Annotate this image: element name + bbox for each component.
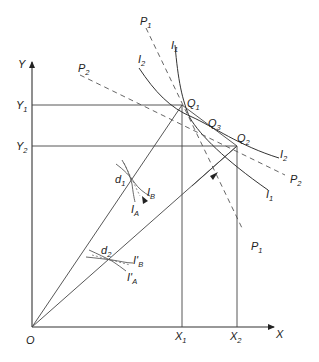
d1-label: d1 [115, 173, 125, 188]
p2-right-label: P2 [290, 173, 302, 188]
ib-d1-label: IB [147, 186, 155, 201]
ia-d2-label: I'A [127, 271, 137, 286]
i1-end-label: I1 [266, 188, 273, 203]
x1-label: X1 [174, 330, 187, 345]
ib-d2-label: I'B [133, 254, 143, 269]
price-lines [80, 28, 285, 228]
y1-label: Y1 [16, 99, 28, 114]
p2-left-label: P2 [78, 62, 90, 77]
ia-d1-label: IA [131, 203, 139, 218]
curve-i2 [139, 68, 279, 158]
i1-top-label: I1 [171, 39, 178, 54]
origin-label: O [26, 334, 35, 346]
price-line-p1 [146, 28, 242, 228]
x-axis-label: X [275, 328, 284, 340]
economic-diagram: Y O X Y1 Y2 X1 X2 Q1 Q2 Q3 d1 d2 I1 I2 I… [0, 0, 319, 362]
p1-top-label: P1 [140, 15, 152, 30]
segment-q2-down [192, 146, 237, 186]
i2-top-label: I2 [138, 53, 146, 68]
y-axis-label: Y [18, 58, 26, 70]
ray-o-q1 [32, 105, 182, 327]
p1-bottom-label: P1 [251, 240, 263, 255]
labels: Y O X Y1 Y2 X1 X2 Q1 Q2 Q3 d1 d2 I1 I2 I… [16, 15, 302, 346]
q2-label: Q2 [237, 132, 251, 147]
price-line-p2 [80, 75, 285, 175]
y2-label: Y2 [16, 140, 28, 155]
i2-end-label: I2 [280, 148, 288, 163]
x2-label: X2 [229, 330, 242, 345]
